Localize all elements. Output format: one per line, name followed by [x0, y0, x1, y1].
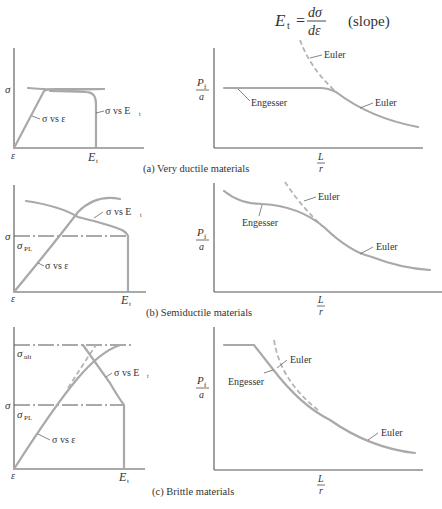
- x-label-den: r: [319, 485, 323, 496]
- y-label-num: P: [196, 374, 204, 386]
- x-axis-label-sub: t: [96, 157, 98, 165]
- label-euler-dashed: Euler: [324, 49, 346, 60]
- label-engesser: Engesser: [228, 376, 265, 387]
- x-label-den: r: [319, 306, 323, 317]
- label-euler-dashed: Euler: [290, 354, 312, 365]
- formula-denominator: dε: [308, 23, 321, 38]
- euler-dashed-curve: [285, 182, 322, 226]
- x-axis-label-sub: t: [127, 477, 129, 485]
- leader-line: [264, 370, 273, 373]
- panel-b-buckling: P f a L r Engesser Euler Euler: [196, 182, 442, 317]
- panel-c-buckling: P f a L r Euler Engesser Euler: [196, 327, 423, 496]
- leader-line: [96, 111, 104, 113]
- y-axis-label: σ: [5, 399, 11, 411]
- y-label-num: P: [196, 226, 204, 238]
- curve-label-sigma-Et: σ vs E: [106, 206, 131, 217]
- x-label-den: r: [319, 163, 323, 174]
- leader-line: [32, 116, 40, 119]
- curve-label-sub: t: [140, 212, 142, 218]
- y-label-den: a: [199, 91, 204, 102]
- leader-line: [94, 212, 103, 218]
- label-euler: Euler: [381, 427, 403, 438]
- panel-a-stress-strain: σ ε E t σ vs ε σ vs E t: [5, 48, 144, 165]
- caption-c: (c) Brittle materials: [152, 486, 234, 498]
- label-engesser: Engesser: [251, 97, 288, 108]
- curve-label-sigma-eps: σ vs ε: [45, 260, 68, 271]
- sigma-vs-Et-curve: [83, 345, 124, 469]
- label-euler: Euler: [376, 241, 398, 252]
- dashed-extension: [68, 345, 96, 388]
- y-axis-label: σ: [5, 230, 11, 242]
- formula-equals: =: [296, 12, 305, 29]
- tangent-modulus-formula: E t = dσ dε (slope): [274, 5, 390, 38]
- formula-numerator: dσ: [308, 5, 323, 20]
- sigma-pl-label: σ: [17, 408, 23, 420]
- origin-label: ε: [11, 470, 15, 481]
- curve-label-sigma-eps: σ vs ε: [52, 434, 75, 445]
- panel-c-stress-strain: σ ult σ σ PL ε E t σ vs ε σ vs E t: [5, 327, 149, 485]
- leader-line: [259, 205, 262, 216]
- sigma-pl-sub: PL: [24, 245, 32, 253]
- panel-b-stress-strain: σ σ PL ε E t σ vs ε σ vs E t: [5, 185, 146, 308]
- leader-line: [304, 197, 316, 201]
- caption-a: (a) Very ductile materials: [143, 163, 249, 175]
- caption-b: (b) Semiductile materials: [146, 307, 252, 319]
- sigma-vs-epsilon-curve: [14, 345, 120, 469]
- sigma-ult-sub: ult: [24, 353, 31, 361]
- label-engesser: Engesser: [242, 217, 279, 228]
- x-axis-label: E: [87, 150, 96, 164]
- y-axis-label: σ: [5, 83, 11, 95]
- curve-label-sigma-Et: σ vs E: [105, 105, 130, 116]
- label-euler-dashed: Euler: [318, 191, 340, 202]
- formula-lhs-sub: t: [287, 20, 290, 31]
- x-axis-label: E: [120, 293, 129, 307]
- x-label-num: L: [317, 151, 324, 162]
- formula-note: (slope): [348, 13, 390, 30]
- x-axis-label: E: [118, 470, 127, 484]
- curve-label-sub: t: [139, 111, 141, 117]
- euler-dashed-curve: [274, 340, 318, 410]
- curve-label-sigma-Et: σ vs E: [114, 367, 139, 378]
- leader-line: [106, 373, 112, 377]
- leader-line: [38, 263, 44, 266]
- leader-line: [238, 89, 250, 101]
- panel-a-buckling: P f a L r Engesser Euler Euler: [196, 40, 423, 174]
- leader-line: [38, 434, 50, 440]
- y-label-num: P: [196, 76, 204, 88]
- formula-lhs: E: [274, 11, 286, 30]
- figure: E t = dσ dε (slope) σ ε E t σ vs ε σ vs …: [0, 0, 442, 509]
- label-euler: Euler: [375, 97, 397, 108]
- curve-label-sub: t: [147, 373, 149, 379]
- leader-line: [310, 55, 322, 58]
- origin-label: ε: [11, 293, 15, 304]
- leader-line: [368, 433, 378, 440]
- y-label-den: a: [199, 241, 204, 252]
- x-label-num: L: [317, 294, 324, 305]
- x-axis-label-sub: t: [129, 300, 131, 308]
- x-label-num: L: [317, 473, 324, 484]
- y-label-den: a: [199, 389, 204, 400]
- leader-line: [360, 103, 373, 108]
- origin-label: ε: [11, 150, 15, 161]
- curve-label-sigma-eps: σ vs ε: [42, 113, 65, 124]
- euler-dashed-curve: [300, 40, 335, 91]
- engesser-euler-curve: [224, 191, 430, 270]
- sigma-pl-sub: PL: [24, 414, 32, 422]
- leader-line: [360, 247, 373, 254]
- sigma-ult-label: σ: [17, 347, 23, 359]
- sigma-pl-label: σ: [17, 239, 23, 251]
